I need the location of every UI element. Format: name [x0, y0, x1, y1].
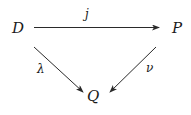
- label-lambda: λ: [36, 62, 45, 76]
- node-q: Q: [87, 87, 99, 105]
- commutative-diagram: D P Q j λ ν: [0, 0, 191, 115]
- node-d: D: [11, 19, 24, 37]
- label-j: j: [82, 7, 89, 21]
- label-nu: ν: [146, 61, 153, 75]
- node-p: P: [171, 19, 183, 37]
